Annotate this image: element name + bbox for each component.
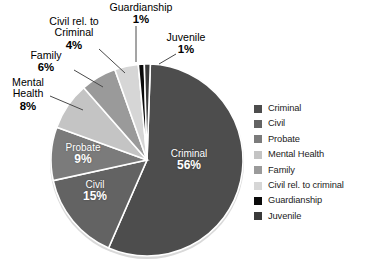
legend-swatch-icon (254, 166, 262, 174)
callout-family-percent: 6% (16, 61, 76, 73)
legend-swatch-icon (254, 105, 262, 113)
callout-guardianship-name: Guardianship (101, 2, 181, 13)
legend-item[interactable]: Guardianship (254, 193, 376, 208)
callout-family-name: Family (16, 50, 76, 61)
leader-line-civil-rel (99, 49, 125, 73)
slice-label-probate: Probate 9% (52, 142, 114, 166)
slice-label-criminal: Criminal 56% (150, 148, 228, 172)
legend-item-label: Civil (268, 119, 285, 128)
callout-civil-rel-line2: Criminal (33, 27, 115, 38)
legend-item-label: Probate (268, 135, 300, 144)
legend-swatch-icon (254, 135, 262, 143)
legend-item[interactable]: Civil (254, 116, 376, 131)
slice-label-civil: Civil 15% (64, 179, 126, 203)
legend-item[interactable]: Probate (254, 132, 376, 147)
chart-legend: CriminalCivilProbateMental HealthFamilyC… (254, 101, 376, 224)
legend-item-label: Family (268, 166, 295, 175)
legend-item[interactable]: Mental Health (254, 147, 376, 162)
callout-juvenile-percent: 1% (155, 43, 217, 55)
legend-swatch-icon (254, 151, 262, 159)
legend-item[interactable]: Civil rel. to criminal (254, 178, 376, 193)
legend-item[interactable]: Criminal (254, 101, 376, 116)
legend-item-label: Juvenile (268, 212, 301, 221)
callout-mental-health: Mental Health 8% (0, 77, 56, 112)
legend-item[interactable]: Family (254, 163, 376, 178)
callout-civil-rel-to-criminal: Civil rel. to Criminal 4% (33, 16, 115, 51)
legend-swatch-icon (254, 120, 262, 128)
callout-juvenile: Juvenile 1% (155, 32, 217, 56)
slice-label-criminal-percent: 56% (150, 159, 228, 172)
legend-item-label: Mental Health (268, 150, 324, 159)
slice-label-probate-percent: 9% (52, 153, 114, 166)
legend-swatch-icon (254, 212, 262, 220)
callout-mental-health-percent: 8% (0, 100, 56, 112)
pie-chart-figure: Guardianship 1% Juvenile 1% Civil rel. t… (0, 0, 376, 265)
legend-item-label: Civil rel. to criminal (268, 181, 344, 190)
slice-label-civil-percent: 15% (64, 190, 126, 203)
legend-item-label: Criminal (268, 104, 301, 113)
callout-mental-health-line2: Health (0, 88, 56, 99)
legend-swatch-icon (254, 197, 262, 205)
callout-family: Family 6% (16, 50, 76, 74)
legend-item[interactable]: Juvenile (254, 209, 376, 224)
callout-juvenile-name: Juvenile (155, 32, 217, 43)
legend-item-label: Guardianship (268, 196, 322, 205)
legend-swatch-icon (254, 182, 262, 190)
